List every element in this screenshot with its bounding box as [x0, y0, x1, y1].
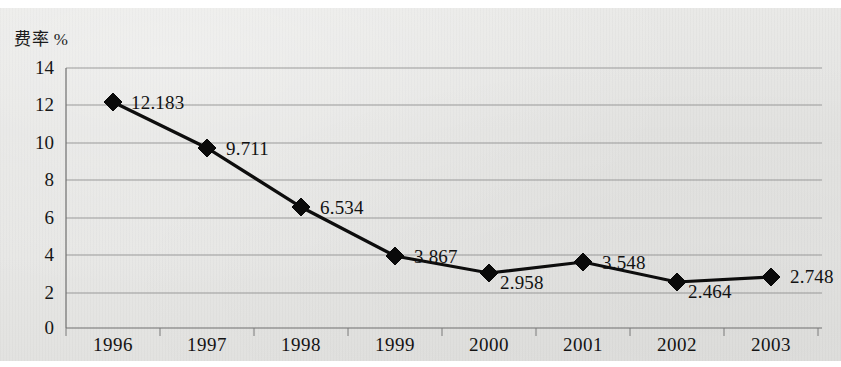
y-tick-label-12: 12 — [10, 94, 54, 116]
chart-plot-area — [0, 0, 841, 367]
y-tick-label-10: 10 — [10, 132, 54, 154]
y-tick-label-6: 6 — [10, 207, 54, 229]
x-tick-label-2002: 2002 — [630, 334, 724, 356]
x-tick-label-1997: 1997 — [160, 334, 254, 356]
data-label-2001: 3.548 — [602, 252, 646, 274]
data-point-2000 — [480, 264, 498, 282]
chart-screenshot: 费率 % — [0, 0, 841, 367]
x-tick-label-1998: 1998 — [254, 334, 348, 356]
x-tick-label-2001: 2001 — [536, 334, 630, 356]
data-point-2002 — [668, 273, 686, 291]
y-tick-label-14: 14 — [10, 57, 54, 79]
y-tick-label-2: 2 — [10, 282, 54, 304]
data-point-1999 — [386, 247, 404, 265]
x-tick-label-2000: 2000 — [442, 334, 536, 356]
data-label-1997: 9.711 — [226, 138, 269, 160]
data-label-1998: 6.534 — [320, 197, 364, 219]
y-tick-label-0: 0 — [10, 317, 54, 339]
x-tick-label-1996: 1996 — [66, 334, 160, 356]
data-label-1996: 12.183 — [131, 92, 184, 114]
data-label-1999: 3.867 — [414, 246, 458, 268]
y-tick-label-8: 8 — [10, 169, 54, 191]
data-point-2003 — [762, 268, 780, 286]
data-label-2000: 2.958 — [500, 272, 544, 294]
data-point-1998 — [292, 198, 310, 216]
data-point-1997 — [198, 139, 216, 157]
x-tick-label-2003: 2003 — [724, 334, 818, 356]
data-point-2001 — [574, 253, 592, 271]
y-tick-label-4: 4 — [10, 244, 54, 266]
data-label-2002: 2.464 — [688, 281, 732, 303]
data-point-1996 — [104, 93, 122, 111]
data-label-2003: 2.748 — [790, 266, 834, 288]
x-tick-label-1999: 1999 — [348, 334, 442, 356]
